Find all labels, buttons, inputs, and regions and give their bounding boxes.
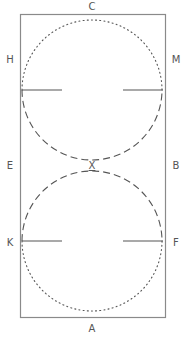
marker-x: X <box>89 161 96 171</box>
lower-circle-dashed-arc <box>22 171 162 241</box>
marker-c: C <box>86 2 98 12</box>
marker-e: E <box>4 161 16 171</box>
upper-circle-dashed-arc <box>22 90 162 160</box>
marker-h: H <box>4 55 16 65</box>
upper-circle-dotted-arc <box>22 20 162 90</box>
marker-f: F <box>170 238 182 248</box>
marker-m: M <box>170 55 182 65</box>
marker-b: B <box>170 161 182 171</box>
marker-a: A <box>86 324 98 334</box>
lower-circle-dotted-arc <box>22 241 162 311</box>
marker-k: K <box>4 238 16 248</box>
